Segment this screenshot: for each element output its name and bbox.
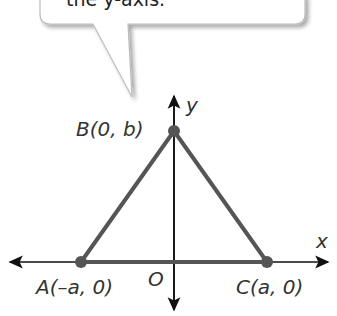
point-c-label: C(a, 0): [236, 275, 303, 299]
point-b-label: B(0, b): [76, 117, 143, 141]
x-axis-label: x: [315, 229, 328, 253]
callout-bubble: the y-axis.: [40, 0, 305, 97]
origin-label: O: [148, 267, 164, 291]
diagram-canvas: the y-axis. y x O B(0, b) A(–a, 0) C(a, …: [0, 0, 337, 316]
point-a: [75, 256, 87, 268]
point-c: [261, 256, 273, 268]
point-b: [168, 125, 180, 137]
y-axis-label: y: [185, 93, 199, 117]
point-a-label: A(–a, 0): [34, 275, 113, 299]
callout-text: the y-axis.: [66, 0, 165, 10]
